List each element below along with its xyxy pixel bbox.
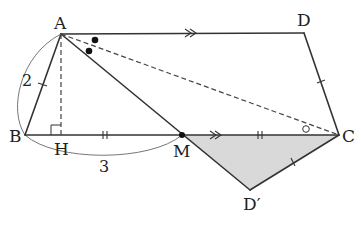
- edge-ad: [61, 33, 304, 34]
- shaded-triangle-mcd-prime: [182, 135, 339, 190]
- angle-circle-c-icon: [303, 126, 310, 133]
- label-b: B: [9, 126, 22, 146]
- label-a: A: [53, 13, 67, 33]
- edge-dc: [304, 33, 339, 135]
- label-d-prime: D′: [243, 194, 261, 214]
- measure-bm: 3: [99, 157, 109, 176]
- label-m: M: [173, 141, 190, 161]
- edge-am-extended: [61, 34, 250, 190]
- dashed-ac-diagonal: [61, 34, 339, 135]
- point-m-dot: [179, 132, 185, 138]
- right-angle-marker-h: [51, 125, 61, 135]
- label-d: D: [297, 10, 311, 30]
- angle-dot-icon-1: [92, 37, 99, 44]
- angle-dot-icon-2: [86, 48, 93, 55]
- label-h: H: [54, 139, 69, 159]
- measure-ab: 2: [22, 71, 32, 90]
- label-c: C: [342, 126, 355, 146]
- geometry-diagram: A D B H M C D′ 2 3: [0, 0, 361, 228]
